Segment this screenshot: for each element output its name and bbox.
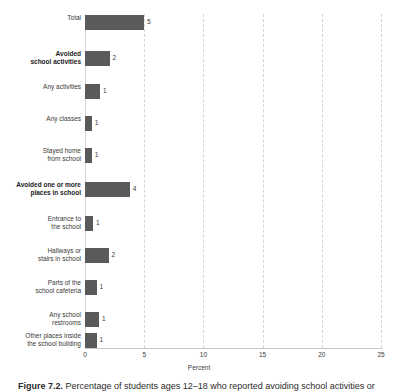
bar (85, 84, 100, 99)
bar (85, 312, 99, 327)
bar-value-label: 2 (113, 55, 117, 62)
gridline-10 (203, 14, 204, 348)
bar-value-label: 1 (96, 220, 100, 227)
category-label: Any classes (0, 115, 81, 123)
category-label: Hallways or stairs in school (0, 247, 81, 263)
bar-value-label: 1 (100, 337, 104, 344)
category-label: Entrance to the school (0, 215, 81, 231)
bar-value-label: 1 (103, 88, 107, 95)
bar-value-label: 1 (100, 284, 104, 291)
gridline-5 (144, 14, 145, 348)
x-axis-line (85, 348, 382, 349)
gridline-25 (381, 14, 382, 348)
bar (85, 15, 144, 30)
figure-container: Total 5 Avoided school activities 2 Any … (0, 0, 398, 391)
x-tick-label: 0 (83, 351, 87, 359)
figure-caption: Figure 7.2. Percentage of students ages … (18, 381, 388, 391)
x-tick-label: 10 (200, 351, 207, 359)
category-label: Other places inside the school building (0, 332, 81, 348)
category-label: Stayed home from school (0, 147, 81, 163)
caption-label: Figure (18, 381, 46, 391)
bar (85, 280, 97, 295)
x-tick-label: 5 (142, 351, 146, 359)
category-label: Any school restrooms (0, 311, 81, 327)
gridline-20 (322, 14, 323, 348)
x-axis-title: Percent (0, 364, 398, 371)
gridline-15 (263, 14, 264, 348)
bar (85, 51, 110, 66)
bar (85, 216, 93, 231)
x-tick-label: 25 (377, 351, 384, 359)
category-label: Total (0, 14, 81, 22)
bar (85, 333, 97, 348)
bar-value-label: 1 (95, 152, 99, 159)
x-tick-label: 20 (318, 351, 325, 359)
caption-text: Percentage of students ages 12–18 who re… (66, 381, 375, 391)
bar-value-label: 2 (111, 252, 115, 259)
caption-number: 7.2. (48, 381, 63, 391)
category-label: Avoided one or more places in school (0, 181, 81, 197)
bar-value-label: 5 (147, 19, 151, 26)
bar (85, 148, 92, 163)
bar-value-label: 1 (95, 120, 99, 127)
x-tick-label: 15 (259, 351, 266, 359)
bar-value-label: 1 (102, 316, 106, 323)
bar (85, 182, 130, 197)
bar-value-label: 4 (133, 186, 137, 193)
category-label: Parts of the school cafeteria (0, 279, 81, 295)
bar (85, 248, 109, 263)
bar (85, 116, 92, 131)
plot-area: Total 5 Avoided school activities 2 Any … (85, 14, 381, 348)
category-label: Any activities (0, 83, 81, 91)
category-label: Avoided school activities (0, 50, 81, 66)
